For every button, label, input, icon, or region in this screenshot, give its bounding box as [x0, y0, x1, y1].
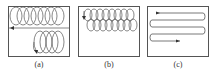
panel-b: [78, 6, 140, 57]
arrow-icon: [34, 50, 38, 54]
spiral-path-diagram-a: [8, 6, 70, 57]
spiral-path-diagram-b: [78, 6, 140, 57]
panel-c: [147, 6, 209, 57]
arrow-icon: [10, 26, 14, 30]
caption-b: (b): [78, 60, 140, 69]
panel-a: [8, 6, 70, 57]
arrow-icon: [176, 40, 180, 43]
caption-a: (a): [8, 60, 70, 69]
zigzag-path-diagram-c: [147, 6, 209, 57]
caption-c: (c): [147, 60, 209, 69]
arrow-icon: [156, 12, 160, 15]
